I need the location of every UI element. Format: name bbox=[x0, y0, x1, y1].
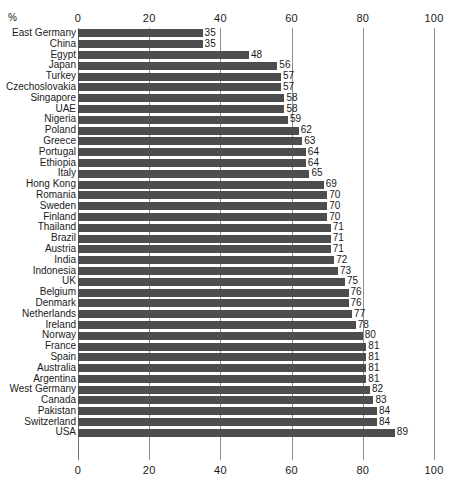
bar bbox=[78, 116, 288, 124]
bar bbox=[78, 159, 306, 167]
axis-tick-label-bottom-100: 100 bbox=[425, 463, 444, 477]
category-label: Sweden bbox=[40, 201, 76, 212]
bar bbox=[78, 127, 299, 135]
bar bbox=[78, 105, 284, 113]
category-label: USA bbox=[55, 427, 76, 438]
axis-tick-label-bottom-20: 20 bbox=[143, 463, 156, 477]
bar bbox=[78, 137, 302, 145]
bar bbox=[78, 51, 249, 59]
axis-tick-label-top-60: 60 bbox=[285, 11, 298, 25]
bar bbox=[78, 191, 327, 199]
bar-row: Sweden70 bbox=[0, 201, 450, 212]
bar bbox=[78, 245, 331, 253]
top-axis: 020406080100 bbox=[0, 11, 450, 25]
category-label: China bbox=[50, 39, 76, 50]
axis-tick-label-top-40: 40 bbox=[214, 11, 227, 25]
bar bbox=[78, 62, 277, 70]
bar-value-label: 59 bbox=[288, 114, 301, 125]
bar bbox=[78, 83, 281, 91]
bar-value-label: 77 bbox=[352, 309, 365, 320]
bar bbox=[78, 148, 306, 156]
bar-value-label: 84 bbox=[377, 417, 390, 428]
bar-row: Portugal64 bbox=[0, 147, 450, 158]
axis-tick-label-top-80: 80 bbox=[356, 11, 369, 25]
category-label: Portugal bbox=[39, 147, 76, 158]
bar bbox=[78, 353, 366, 361]
axis-tick-label-bottom-40: 40 bbox=[214, 463, 227, 477]
bar bbox=[78, 343, 366, 351]
bar bbox=[78, 418, 377, 426]
bar bbox=[78, 375, 366, 383]
bar-row: Australia81 bbox=[0, 363, 450, 374]
bar bbox=[78, 181, 324, 189]
bar bbox=[78, 29, 203, 37]
axis-tick-label-bottom-0: 0 bbox=[75, 463, 81, 477]
axis-tick-label-top-100: 100 bbox=[425, 11, 444, 25]
bar bbox=[78, 170, 309, 178]
bottom-axis: 020406080100 bbox=[0, 463, 450, 477]
category-label: India bbox=[54, 255, 76, 266]
bar bbox=[78, 213, 327, 221]
bar-row: Singapore58 bbox=[0, 93, 450, 104]
bar-rows: East Germany35China35Egypt48Japan56Turke… bbox=[0, 28, 450, 438]
category-label: Netherlands bbox=[22, 309, 76, 320]
bar bbox=[78, 386, 370, 394]
bar bbox=[78, 235, 331, 243]
bar-value-label: 64 bbox=[306, 147, 319, 158]
bar bbox=[78, 267, 338, 275]
bar-row: Netherlands77 bbox=[0, 309, 450, 320]
category-label: Australia bbox=[37, 363, 76, 374]
bar-value-label: 72 bbox=[334, 255, 347, 266]
axis-tick-label-top-0: 0 bbox=[75, 11, 81, 25]
bar-value-label: 48 bbox=[249, 50, 262, 61]
bar bbox=[78, 321, 356, 329]
bar bbox=[78, 278, 345, 286]
bar bbox=[78, 407, 377, 415]
bar bbox=[78, 224, 331, 232]
bar-row: India72 bbox=[0, 255, 450, 266]
bar bbox=[78, 429, 395, 437]
bar bbox=[78, 396, 373, 404]
bar-row: China35 bbox=[0, 39, 450, 50]
axis-tick-label-top-20: 20 bbox=[143, 11, 156, 25]
category-label: Singapore bbox=[30, 93, 76, 104]
plot-area: East Germany35China35Egypt48Japan56Turke… bbox=[0, 28, 450, 460]
bar-value-label: 58 bbox=[284, 93, 297, 104]
bar-value-label: 89 bbox=[395, 427, 408, 438]
axis-tick-label-bottom-60: 60 bbox=[285, 463, 298, 477]
bar-value-label: 35 bbox=[203, 39, 216, 50]
bar bbox=[78, 310, 352, 318]
bar-value-label: 70 bbox=[327, 201, 340, 212]
bar bbox=[78, 202, 327, 210]
bar bbox=[78, 364, 366, 372]
bar bbox=[78, 94, 284, 102]
bar bbox=[78, 289, 349, 297]
bar-row: USA89 bbox=[0, 427, 450, 438]
bar bbox=[78, 332, 363, 340]
axis-tick-label-bottom-80: 80 bbox=[356, 463, 369, 477]
bar bbox=[78, 40, 203, 48]
bar bbox=[78, 256, 334, 264]
horizontal-bar-chart: % 020406080100 East Germany35China35Egyp… bbox=[0, 0, 450, 484]
bar bbox=[78, 73, 281, 81]
bar-value-label: 65 bbox=[309, 168, 322, 179]
bar-value-label: 81 bbox=[366, 363, 379, 374]
bar bbox=[78, 299, 349, 307]
